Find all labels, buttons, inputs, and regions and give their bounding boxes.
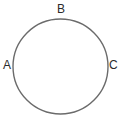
point-label-b: B <box>57 3 65 15</box>
circle-diagram-figure: A B C <box>0 0 133 127</box>
point-label-a: A <box>3 59 11 71</box>
point-label-c: C <box>109 59 118 71</box>
